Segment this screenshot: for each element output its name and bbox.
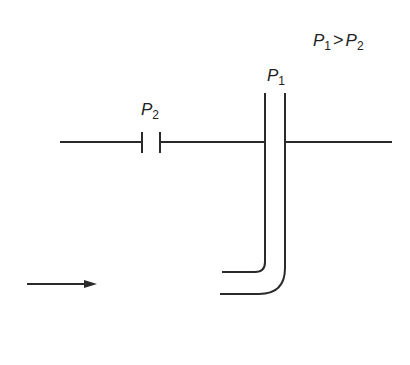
pitot-tube-outer-wall [220,93,285,294]
p2-label: P2 [141,100,159,122]
p1-label: P1 [267,66,285,88]
flow-arrow-head-icon [84,280,97,288]
pressure-relation-label: P1>P2 [313,30,364,53]
flow-diagram [0,0,410,365]
pitot-tube-inner-wall [222,93,265,272]
